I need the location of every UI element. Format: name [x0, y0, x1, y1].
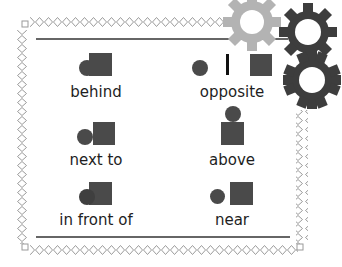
label-above: above: [172, 151, 292, 169]
circle-shape: [225, 106, 241, 122]
square-shape: [221, 122, 244, 145]
circle-shape: [210, 189, 225, 204]
square-shape: [230, 182, 253, 205]
square-shape: [89, 53, 112, 76]
gear-light-icon: [222, 0, 282, 52]
circle-shape: [77, 129, 93, 145]
square-shape: [93, 122, 115, 145]
divider-line-shape: [226, 54, 229, 75]
gear-dark-bottom-icon: [282, 50, 342, 110]
label-in-front-of: in front of: [36, 211, 156, 229]
label-opposite: opposite: [172, 83, 292, 101]
bottom-rule: [36, 236, 290, 238]
label-near: near: [172, 211, 292, 229]
label-next-to: next to: [36, 151, 156, 169]
circle-shape: [192, 60, 208, 76]
square-shape: [250, 54, 272, 76]
circle-shape: [79, 189, 95, 205]
label-behind: behind: [36, 83, 156, 101]
